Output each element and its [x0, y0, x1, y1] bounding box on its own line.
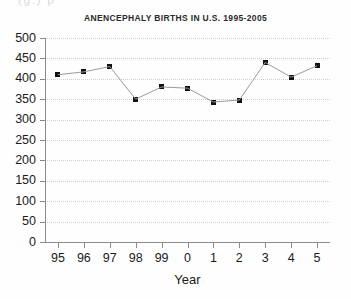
data-point [237, 98, 242, 103]
x-axis-tick [162, 242, 163, 248]
y-axis-label: 250 [0, 134, 36, 147]
y-axis-label: 400 [0, 72, 36, 85]
data-point [159, 84, 164, 89]
gridline [45, 99, 330, 100]
x-axis-tick [136, 242, 137, 248]
data-point [289, 75, 294, 80]
y-axis-label: 100 [0, 195, 36, 208]
gridline [45, 79, 330, 80]
data-point [107, 64, 112, 69]
gridline [45, 140, 330, 141]
y-axis-tick [40, 160, 45, 161]
y-axis-label: 150 [0, 174, 36, 187]
x-axis-tick [84, 242, 85, 248]
y-axis-tick [40, 79, 45, 80]
y-axis-tick [40, 120, 45, 121]
y-axis-label: 0 [0, 236, 36, 249]
data-point [81, 69, 86, 74]
y-axis-label: 200 [0, 154, 36, 167]
x-axis-tick [188, 242, 189, 248]
y-axis-tick [40, 201, 45, 202]
data-point [133, 97, 138, 102]
y-axis-label: 500 [0, 32, 36, 45]
data-point [185, 86, 190, 91]
y-axis-tick [40, 38, 45, 39]
y-axis-tick [40, 181, 45, 182]
y-axis-label: 50 [0, 215, 36, 228]
gridline [45, 38, 330, 39]
data-point [263, 60, 268, 65]
y-axis-line [45, 38, 46, 242]
x-axis-tick [213, 242, 214, 248]
x-axis-tick [110, 242, 111, 248]
plot-area [45, 38, 330, 242]
data-point [55, 72, 60, 77]
x-axis-tick [265, 242, 266, 248]
x-axis-title: Year [45, 272, 330, 287]
x-axis-tick [291, 242, 292, 248]
x-axis-tick [239, 242, 240, 248]
page-title: ANENCEPHALY BIRTHS IN U.S. 1995-2005 [0, 13, 351, 23]
gridline [45, 181, 330, 182]
y-axis-label: 350 [0, 93, 36, 106]
clipped-scan-text: (g.) p [18, 0, 56, 6]
y-axis-tick [40, 99, 45, 100]
gridline [45, 222, 330, 223]
x-axis-label: 5 [302, 252, 332, 265]
y-axis-label: 450 [0, 52, 36, 65]
y-axis-tick [40, 140, 45, 141]
y-axis-tick [40, 222, 45, 223]
gridline [45, 120, 330, 121]
gridline [45, 58, 330, 59]
y-axis-tick [40, 58, 45, 59]
data-point [211, 100, 216, 105]
data-point [315, 63, 320, 68]
chart-page: (g.) p ANENCEPHALY BIRTHS IN U.S. 1995-2… [0, 0, 351, 299]
x-axis-tick [317, 242, 318, 248]
y-axis-tick [40, 242, 45, 243]
x-axis-tick [58, 242, 59, 248]
gridline [45, 201, 330, 202]
y-axis-label: 300 [0, 113, 36, 126]
gridline [45, 160, 330, 161]
